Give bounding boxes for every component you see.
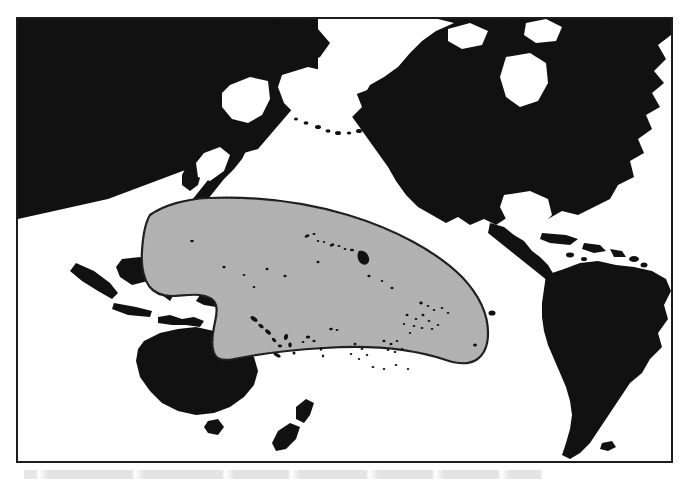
island-easter-island <box>473 344 477 347</box>
map-frame-border: Map of the Pacific Ocean showing the sha… <box>16 17 673 463</box>
figure-root: Map of the Pacific Ocean showing the sha… <box>0 0 688 481</box>
land-galapagos <box>489 310 496 315</box>
cropped-caption-artifact <box>24 470 624 479</box>
pacific-ocean-map: Map of the Pacific Ocean showing the sha… <box>18 19 671 461</box>
